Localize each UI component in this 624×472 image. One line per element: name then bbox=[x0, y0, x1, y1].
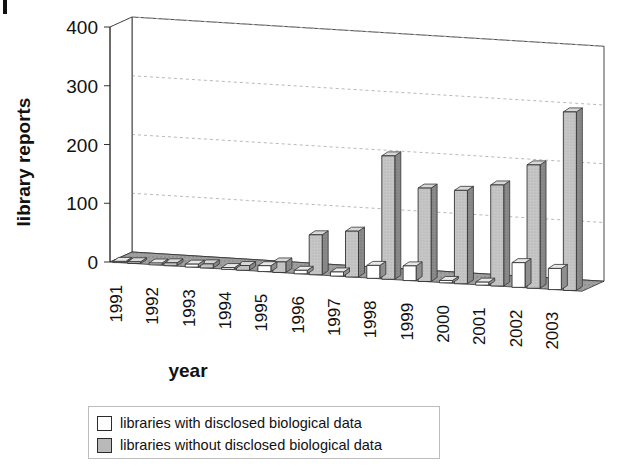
bar-gray bbox=[491, 181, 510, 286]
x-tick-label-1991: 1991 bbox=[107, 285, 126, 323]
y-tick-label: 300 bbox=[66, 76, 98, 97]
x-tick-label-1992: 1992 bbox=[143, 287, 162, 325]
x-tick-label-1993: 1993 bbox=[180, 289, 199, 327]
bar-white bbox=[367, 261, 386, 278]
bar-chart-3d: library reports year 4003002001000 19911… bbox=[0, 0, 624, 472]
bar-gray bbox=[563, 108, 582, 291]
x-tick-label-1998: 1998 bbox=[361, 301, 380, 339]
x-tick-label-1999: 1999 bbox=[398, 303, 417, 341]
y-tick-label: 200 bbox=[66, 135, 98, 156]
x-tick-label-1995: 1995 bbox=[252, 294, 271, 332]
y-tick-label: 0 bbox=[87, 252, 98, 273]
legend-label-without: libraries without disclosed biological d… bbox=[120, 438, 382, 453]
legend-swatch-gray bbox=[97, 438, 112, 453]
x-tick-label-2003: 2003 bbox=[543, 312, 562, 350]
chart-page: library reports year 4003002001000 19911… bbox=[0, 0, 624, 472]
x-tick-label-2001: 2001 bbox=[470, 307, 489, 345]
chart-legend: libraries with disclosed biological data… bbox=[88, 406, 440, 459]
x-axis-title: year bbox=[168, 360, 208, 381]
x-tick-label-1994: 1994 bbox=[216, 292, 235, 330]
bar-gray bbox=[382, 152, 401, 279]
bar-white bbox=[548, 264, 567, 289]
legend-item-without: libraries without disclosed biological d… bbox=[97, 434, 431, 456]
legend-item-with: libraries with disclosed biological data bbox=[97, 412, 431, 434]
y-tick-label: 400 bbox=[66, 17, 98, 38]
x-tick-label-2002: 2002 bbox=[507, 310, 526, 348]
y-axis-title: library reports bbox=[13, 98, 34, 227]
y-tick-label: 100 bbox=[66, 193, 98, 214]
bar-white bbox=[403, 262, 422, 281]
x-tick-label-1996: 1996 bbox=[289, 296, 308, 334]
legend-label-with: libraries with disclosed biological data bbox=[120, 416, 362, 431]
legend-swatch-white bbox=[97, 416, 112, 431]
bar-gray bbox=[454, 186, 473, 283]
bar-white bbox=[512, 259, 531, 288]
plot-area bbox=[110, 17, 604, 291]
y-axis-ticks: 4003002001000 bbox=[66, 17, 110, 273]
x-tick-label-1997: 1997 bbox=[325, 298, 344, 336]
x-axis-ticks: 1991199219931994199519961997199819992000… bbox=[107, 285, 562, 350]
x-tick-label-2000: 2000 bbox=[434, 305, 453, 343]
